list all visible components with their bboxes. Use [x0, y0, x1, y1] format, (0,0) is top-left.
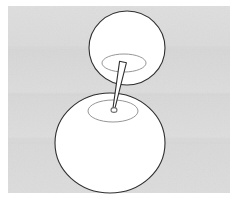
illustration-root: [0, 0, 238, 201]
sphere-pin-illustration: [0, 0, 238, 201]
pin-entry-hole: [111, 108, 117, 113]
upper-sphere: [89, 11, 165, 85]
lower-sphere: [55, 93, 165, 193]
